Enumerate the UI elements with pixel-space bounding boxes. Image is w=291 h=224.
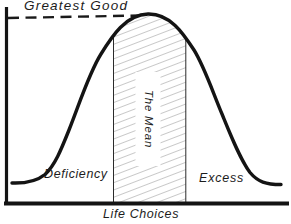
- x-axis-label: Life Choices: [103, 207, 179, 221]
- deficiency-label: Deficiency: [44, 167, 108, 181]
- greatest-good-dashed-line: [8, 16, 140, 19]
- greatest-good-label: Greatest Good: [24, 0, 128, 13]
- the-mean-label: The Mean: [136, 72, 161, 166]
- golden-mean-bell-curve-figure: Greatest Good The Mean Deficiency Excess…: [0, 0, 291, 224]
- excess-label: Excess: [199, 171, 244, 185]
